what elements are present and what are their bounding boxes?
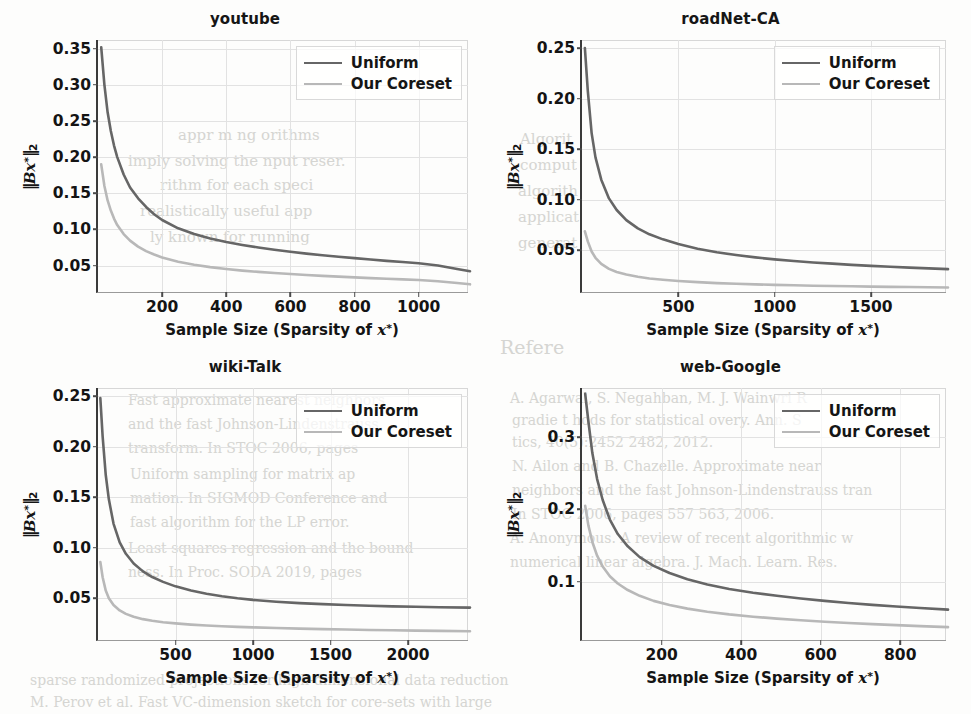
y-tick-label: 0.2 xyxy=(548,500,582,518)
y-tick-label: 0.3 xyxy=(548,428,582,446)
legend-line-swatch xyxy=(304,410,342,412)
y-tick-label: 0.15 xyxy=(53,488,98,506)
y-tick-label: 0.25 xyxy=(53,112,98,130)
x-tick-label: 800 xyxy=(338,298,370,316)
plot-area: 0.10.20.3200400600800UniformOur Coreset xyxy=(580,388,946,641)
series-line-our-coreset xyxy=(100,562,470,631)
y-axis-label: ‖Bx*‖2 xyxy=(505,491,523,538)
y-tick-label: 0.15 xyxy=(537,140,582,158)
legend-item-uniform[interactable]: Uniform xyxy=(782,52,930,73)
y-axis-label: ‖Bx*‖2 xyxy=(505,143,523,190)
chart-title: wiki-Talk xyxy=(0,358,490,376)
x-tick-label: 500 xyxy=(662,298,694,316)
y-tick-label: 0.10 xyxy=(53,220,98,238)
legend-label: Our Coreset xyxy=(351,423,452,441)
chart-panel-web-google: web-Google0.10.20.3200400600800UniformOu… xyxy=(490,340,971,714)
chart-title: web-Google xyxy=(490,358,971,376)
legend-line-swatch xyxy=(304,62,342,64)
series-line-our-coreset xyxy=(585,506,948,627)
x-axis-label: Sample Size (Sparsity of x*) xyxy=(580,669,946,687)
x-tick-label: 1500 xyxy=(849,298,892,316)
x-axis-label: Sample Size (Sparsity of x*) xyxy=(96,321,468,339)
y-tick-label: 0.20 xyxy=(537,90,582,108)
y-tick-label: 0.05 xyxy=(537,241,582,259)
x-axis-label: Sample Size (Sparsity of x*) xyxy=(580,321,946,339)
x-tick-label: 1000 xyxy=(397,298,440,316)
chart-title: youtube xyxy=(0,10,490,28)
x-tick-label: 1000 xyxy=(753,298,796,316)
legend-item-our-coreset[interactable]: Our Coreset xyxy=(782,73,930,94)
legend-line-swatch xyxy=(304,431,342,433)
legend-item-uniform[interactable]: Uniform xyxy=(304,52,452,73)
legend-label: Uniform xyxy=(351,54,419,72)
legend-item-uniform[interactable]: Uniform xyxy=(782,400,930,421)
legend-label: Uniform xyxy=(829,402,897,420)
x-axis-label: Sample Size (Sparsity of x*) xyxy=(96,669,468,687)
y-tick-label: 0.15 xyxy=(53,184,98,202)
legend-label: Our Coreset xyxy=(829,423,930,441)
legend-item-our-coreset[interactable]: Our Coreset xyxy=(304,73,452,94)
y-tick-label: 0.35 xyxy=(53,40,98,58)
x-tick-label: 1000 xyxy=(231,646,274,664)
plot-area: 0.050.100.150.200.2550010001500UniformOu… xyxy=(580,40,946,293)
legend-label: Our Coreset xyxy=(829,75,930,93)
y-tick-label: 0.05 xyxy=(53,589,98,607)
y-tick-label: 0.10 xyxy=(537,191,582,209)
x-tick-label: 400 xyxy=(725,646,757,664)
y-axis-label: ‖Bx*‖2 xyxy=(21,491,39,538)
legend-label: Our Coreset xyxy=(351,75,452,93)
x-tick-label: 500 xyxy=(159,646,191,664)
legend-item-our-coreset[interactable]: Our Coreset xyxy=(782,421,930,442)
x-tick-label: 1500 xyxy=(309,646,352,664)
y-tick-label: 0.30 xyxy=(53,76,98,94)
y-tick-label: 0.20 xyxy=(53,438,98,456)
legend-line-swatch xyxy=(782,62,820,64)
y-tick-label: 0.10 xyxy=(53,539,98,557)
legend-item-uniform[interactable]: Uniform xyxy=(304,400,452,421)
legend-label: Uniform xyxy=(351,402,419,420)
legend-item-our-coreset[interactable]: Our Coreset xyxy=(304,421,452,442)
chart-legend[interactable]: UniformOur Coreset xyxy=(774,46,940,100)
chart-title: roadNet-CA xyxy=(490,10,971,28)
plot-area: 0.050.100.150.200.250.300.35200400600800… xyxy=(96,40,468,293)
legend-line-swatch xyxy=(782,83,820,85)
chart-panel-youtube: youtube0.050.100.150.200.250.300.3520040… xyxy=(0,0,490,340)
figure-grid: youtube0.050.100.150.200.250.300.3520040… xyxy=(0,0,971,714)
series-line-our-coreset xyxy=(101,164,470,284)
y-tick-label: 0.25 xyxy=(53,387,98,405)
x-tick-label: 800 xyxy=(884,646,916,664)
legend-line-swatch xyxy=(304,83,342,85)
chart-legend[interactable]: UniformOur Coreset xyxy=(774,394,940,448)
x-tick-label: 400 xyxy=(210,298,242,316)
x-tick-label: 2000 xyxy=(386,646,429,664)
x-tick-label: 200 xyxy=(645,646,677,664)
legend-label: Uniform xyxy=(829,54,897,72)
x-tick-label: 200 xyxy=(146,298,178,316)
y-tick-label: 0.20 xyxy=(53,148,98,166)
plot-area: 0.050.100.150.200.25500100015002000Unifo… xyxy=(96,388,468,641)
chart-panel-roadnet-ca: roadNet-CA0.050.100.150.200.255001000150… xyxy=(490,0,971,340)
legend-line-swatch xyxy=(782,431,820,433)
y-tick-label: 0.25 xyxy=(537,39,582,57)
y-axis-label: ‖Bx*‖2 xyxy=(21,143,39,190)
legend-line-swatch xyxy=(782,410,820,412)
chart-panel-wiki-talk: wiki-Talk0.050.100.150.200.2550010001500… xyxy=(0,340,490,714)
x-tick-label: 600 xyxy=(274,298,306,316)
y-tick-label: 0.05 xyxy=(53,257,98,275)
y-tick-label: 0.1 xyxy=(548,573,582,591)
chart-legend[interactable]: UniformOur Coreset xyxy=(296,46,462,100)
x-tick-label: 600 xyxy=(805,646,837,664)
chart-legend[interactable]: UniformOur Coreset xyxy=(296,394,462,448)
